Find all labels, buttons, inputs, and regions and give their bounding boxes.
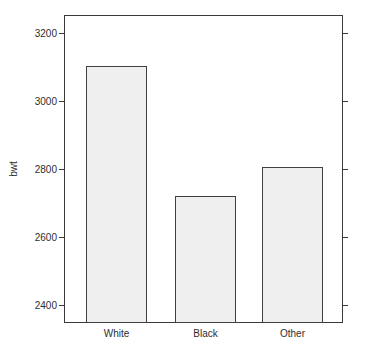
y-tick-left — [59, 169, 64, 170]
y-tick-left — [59, 237, 64, 238]
y-tick-left — [59, 305, 64, 306]
y-tick-label: 3000 — [25, 96, 57, 107]
y-tick-label: 2400 — [25, 300, 57, 311]
y-tick-left — [59, 33, 64, 34]
y-tick-right — [343, 169, 348, 170]
bar-chart-figure: bwt 24002600280030003200WhiteBlackOther — [0, 0, 368, 352]
x-tick-label: White — [82, 328, 152, 339]
y-tick-label: 3200 — [25, 28, 57, 39]
x-tick-label: Other — [258, 328, 328, 339]
y-tick-right — [343, 101, 348, 102]
y-tick-right — [343, 305, 348, 306]
y-tick-label: 2800 — [25, 164, 57, 175]
bar-white — [86, 66, 147, 323]
bar-black — [175, 196, 236, 323]
y-axis-title: bwt — [8, 161, 19, 177]
y-tick-right — [343, 33, 348, 34]
y-tick-right — [343, 237, 348, 238]
y-tick-label: 2600 — [25, 232, 57, 243]
y-tick-left — [59, 101, 64, 102]
x-tick-label: Black — [171, 328, 241, 339]
bar-other — [262, 167, 323, 323]
